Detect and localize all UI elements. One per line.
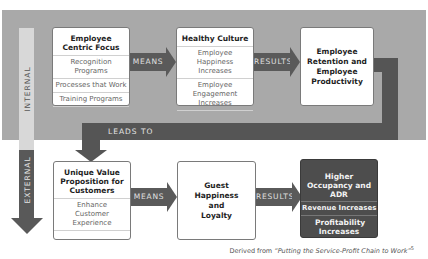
box-title: Unique Value Proposition for Customers [54, 168, 130, 198]
internal-zone-label: INTERNAL [22, 66, 31, 111]
results-arrow-internal: RESULTS [254, 51, 300, 73]
arrow-head-icon [167, 182, 177, 212]
list-item: Recognition Programs [53, 55, 129, 78]
caption-source: “Putting the Service-Profit Chain to Wor… [274, 247, 411, 255]
list-item: Revenue Increases [301, 202, 377, 216]
list-item: Employee Engagement Increases [177, 78, 253, 111]
leads-to-connector-drop [82, 140, 100, 150]
arrow-label: MEANS [131, 188, 167, 206]
arrow-label: RESULTS [256, 188, 292, 206]
list-item: Processes that Work [53, 78, 129, 92]
means-arrow-external: MEANS [131, 186, 177, 208]
external-arrow-head-icon [11, 218, 43, 234]
box-title: Guest Happiness and Loyalty [178, 181, 255, 221]
box-title: Employee Centric Focus [53, 34, 129, 55]
results-arrow-external: RESULTS [256, 186, 302, 208]
external-zone-arrow: EXTERNAL [19, 150, 34, 218]
box-title: Employee Retention and Employee Producti… [301, 47, 373, 87]
arrow-head-icon [290, 47, 300, 77]
list-item: Higher Occupancy and ADR [301, 170, 377, 202]
external-zone-label: EXTERNAL [22, 156, 31, 203]
financial-results-box: Higher Occupancy and ADR Revenue Increas… [300, 159, 378, 238]
list-item: Training Programs [53, 92, 129, 107]
box-title: Healthy Culture [177, 34, 253, 46]
caption-footnote: 5 [411, 245, 414, 251]
list-item: Profitability Increases [301, 216, 377, 238]
internal-zone-label-strip: INTERNAL [19, 28, 34, 150]
list-item: Enhance Customer Experience [54, 198, 130, 231]
source-caption: Derived from “Putting the Service-Profit… [230, 245, 414, 255]
arrow-label: RESULTS [254, 53, 290, 71]
employee-centric-focus-box: Employee Centric Focus Recognition Progr… [52, 27, 130, 106]
leads-to-connector: LEADS TO [82, 123, 398, 140]
caption-prefix: Derived from [230, 247, 275, 255]
guest-happiness-box: Guest Happiness and Loyalty [177, 161, 256, 240]
arrow-head-icon [166, 47, 176, 77]
leads-to-label: LEADS TO [108, 123, 153, 140]
arrow-label: MEANS [130, 53, 166, 71]
list-item: Employee Happiness Increases [177, 46, 253, 78]
healthy-culture-box: Healthy Culture Employee Happiness Incre… [176, 27, 254, 106]
unique-value-proposition-box: Unique Value Proposition for Customers E… [53, 161, 131, 240]
means-arrow-internal: MEANS [130, 51, 176, 73]
employee-retention-box: Employee Retention and Employee Producti… [300, 27, 374, 106]
